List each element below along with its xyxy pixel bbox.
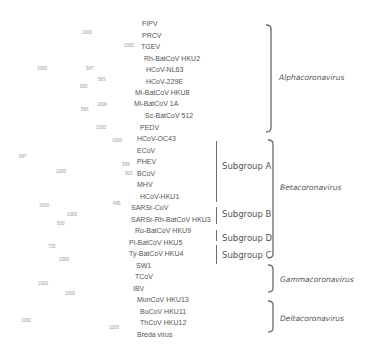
genus-bracket-icon — [268, 301, 273, 332]
genus-bracket-icon — [266, 25, 271, 132]
phylogenetic-tree: FIPVPRCVTGEVRh-BatCoV HKU2HCoV-NL63HCoV-… — [0, 0, 371, 354]
genus-bracket-icon — [268, 140, 273, 258]
genus-bracket-icon — [268, 265, 273, 292]
clade-brackets — [0, 0, 371, 354]
